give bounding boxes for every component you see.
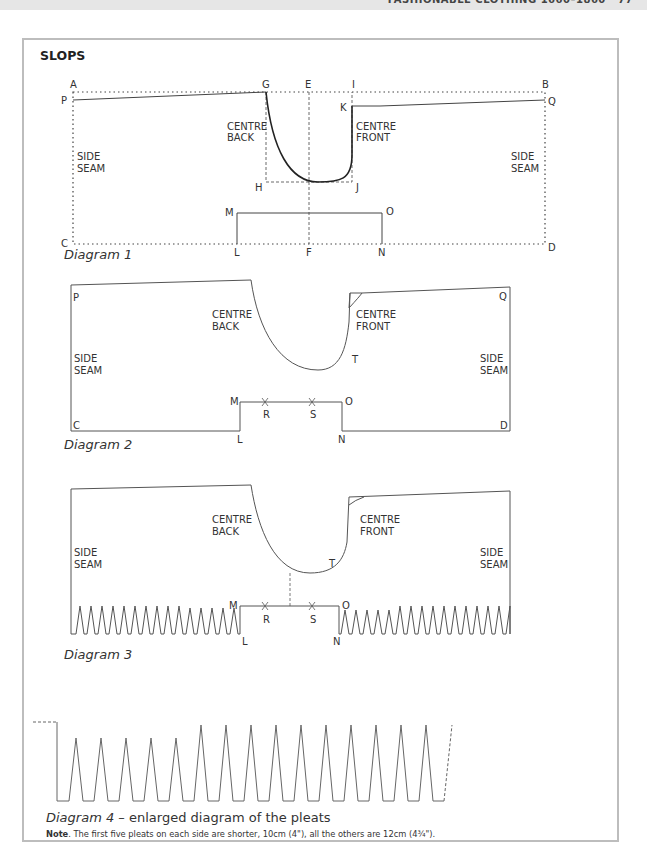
svg-text:FRONT: FRONT bbox=[360, 526, 395, 537]
svg-text:L: L bbox=[242, 636, 248, 647]
diagram-2 bbox=[71, 280, 510, 431]
svg-text:B: B bbox=[542, 79, 549, 90]
svg-text:R: R bbox=[263, 614, 270, 625]
note-label: Note bbox=[46, 829, 68, 839]
svg-text:N: N bbox=[378, 247, 385, 258]
svg-text:O: O bbox=[345, 396, 353, 407]
svg-text:D: D bbox=[500, 420, 508, 431]
svg-text:CENTRE: CENTRE bbox=[356, 309, 396, 320]
svg-text:CENTRE: CENTRE bbox=[212, 514, 252, 525]
diagram-4-caption: Diagram 4 – enlarged diagram of the plea… bbox=[46, 810, 331, 825]
diagram-1-caption: Diagram 1 bbox=[64, 247, 132, 262]
svg-text:BACK: BACK bbox=[227, 132, 255, 143]
diagram-3-caption: Diagram 3 bbox=[64, 647, 132, 662]
svg-text:BACK: BACK bbox=[212, 321, 240, 332]
svg-text:SEAM: SEAM bbox=[480, 559, 508, 570]
diagram-3 bbox=[71, 485, 510, 634]
svg-text:T: T bbox=[328, 558, 336, 569]
svg-text:CENTRE: CENTRE bbox=[360, 514, 400, 525]
svg-text:Q: Q bbox=[499, 291, 507, 302]
svg-text:G: G bbox=[262, 79, 270, 90]
svg-text:Q: Q bbox=[548, 96, 556, 107]
diagram-1 bbox=[73, 92, 545, 244]
svg-text:SIDE: SIDE bbox=[480, 353, 503, 364]
svg-text:J: J bbox=[355, 182, 359, 193]
svg-text:BACK: BACK bbox=[212, 526, 240, 537]
svg-text:N: N bbox=[333, 636, 340, 647]
svg-text:FRONT: FRONT bbox=[356, 132, 391, 143]
svg-text:SEAM: SEAM bbox=[511, 163, 539, 174]
svg-text:R: R bbox=[263, 409, 270, 420]
svg-text:O: O bbox=[386, 206, 394, 217]
svg-text:D: D bbox=[548, 242, 556, 253]
svg-text:SIDE: SIDE bbox=[74, 353, 97, 364]
svg-text:P: P bbox=[73, 292, 79, 303]
diagram-4-caption-rest: – enlarged diagram of the pleats bbox=[114, 810, 330, 825]
svg-text:T: T bbox=[351, 354, 359, 365]
svg-text:M: M bbox=[229, 600, 238, 611]
diagram-3-labels: CENTRE BACK CENTRE FRONT SIDE SEAM SIDE … bbox=[74, 514, 508, 647]
svg-text:SEAM: SEAM bbox=[74, 559, 102, 570]
diagram-1-labels: A P G E I B Q K CENTRE BACK CENTRE FRONT… bbox=[61, 79, 556, 258]
svg-text:K: K bbox=[340, 102, 347, 113]
svg-text:M: M bbox=[225, 207, 234, 218]
svg-text:SEAM: SEAM bbox=[74, 365, 102, 376]
svg-text:SIDE: SIDE bbox=[480, 547, 503, 558]
diagram-2-caption: Diagram 2 bbox=[64, 437, 132, 452]
svg-text:SIDE: SIDE bbox=[77, 151, 100, 162]
diagram-4-caption-title: Diagram 4 bbox=[46, 810, 114, 825]
svg-text:SEAM: SEAM bbox=[77, 163, 105, 174]
svg-text:S: S bbox=[310, 409, 316, 420]
svg-text:CENTRE: CENTRE bbox=[356, 121, 396, 132]
svg-text:CENTRE: CENTRE bbox=[227, 121, 267, 132]
note-text: . The first five pleats on each side are… bbox=[68, 829, 435, 839]
svg-text:SIDE: SIDE bbox=[74, 547, 97, 558]
svg-text:SIDE: SIDE bbox=[511, 151, 534, 162]
svg-text:M: M bbox=[230, 396, 239, 407]
svg-text:H: H bbox=[255, 182, 263, 193]
svg-text:P: P bbox=[61, 95, 67, 106]
svg-text:F: F bbox=[306, 247, 312, 258]
svg-text:CENTRE: CENTRE bbox=[212, 309, 252, 320]
svg-text:SEAM: SEAM bbox=[480, 365, 508, 376]
diagram-2-labels: P Q CENTRE BACK CENTRE FRONT SIDE SEAM S… bbox=[73, 291, 508, 445]
svg-text:FRONT: FRONT bbox=[356, 321, 391, 332]
svg-text:N: N bbox=[338, 434, 345, 445]
svg-text:E: E bbox=[305, 79, 311, 90]
svg-text:I: I bbox=[352, 79, 355, 90]
svg-text:L: L bbox=[234, 247, 240, 258]
svg-text:S: S bbox=[310, 614, 316, 625]
svg-text:C: C bbox=[73, 420, 80, 431]
svg-text:A: A bbox=[70, 79, 77, 90]
slops-diagrams: A P G E I B Q K CENTRE BACK CENTRE FRONT… bbox=[0, 0, 647, 856]
pleat-note: Note. The first five pleats on each side… bbox=[46, 829, 435, 839]
svg-text:L: L bbox=[237, 434, 243, 445]
diagram-4-pleats bbox=[33, 722, 452, 801]
svg-text:O: O bbox=[342, 600, 350, 611]
